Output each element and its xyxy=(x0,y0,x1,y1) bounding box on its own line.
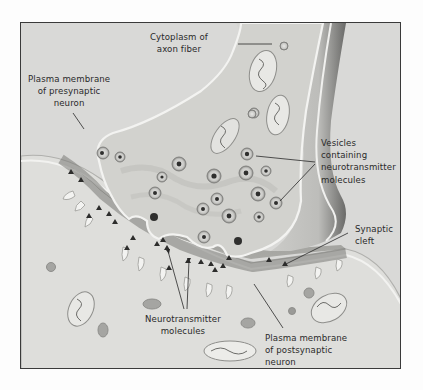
label-line: molecules xyxy=(321,174,396,186)
label-cytoplasm-axon-fiber: Cytoplasm of axon fiber xyxy=(150,31,208,55)
label-postsynaptic-membrane: Plasma membrane of postsynaptic neuron xyxy=(265,332,347,369)
label-line: neuron xyxy=(265,356,347,368)
illustration-frame: Cytoplasm of axon fiber Plasma membrane … xyxy=(20,22,401,369)
synapse-figure: Cytoplasm of axon fiber Plasma membrane … xyxy=(0,0,423,390)
cropped-caption-remnant xyxy=(0,0,423,8)
label-neurotransmitter-molecules: Neurotransmitter molecules xyxy=(145,313,221,337)
label-line: neuron xyxy=(28,97,110,109)
label-line: cleft xyxy=(355,235,393,247)
label-line: axon fiber xyxy=(150,43,208,55)
label-line: of postsynaptic xyxy=(265,344,347,356)
label-line: Vesicles xyxy=(321,137,396,149)
label-line: Plasma membrane xyxy=(28,73,110,85)
label-line: neurotransmitter xyxy=(321,161,396,173)
label-line: Plasma membrane xyxy=(265,332,347,344)
label-line: Synaptic xyxy=(355,223,393,235)
label-line: molecules xyxy=(145,325,221,337)
label-line: containing xyxy=(321,149,396,161)
label-synaptic-cleft: Synaptic cleft xyxy=(355,223,393,247)
label-presynaptic-membrane: Plasma membrane of presynaptic neuron xyxy=(28,73,110,110)
label-line: of presynaptic xyxy=(28,85,110,97)
label-vesicles: Vesicles containing neurotransmitter mol… xyxy=(321,137,396,186)
label-line: Neurotransmitter xyxy=(145,313,221,325)
label-line: Cytoplasm of xyxy=(150,31,208,43)
